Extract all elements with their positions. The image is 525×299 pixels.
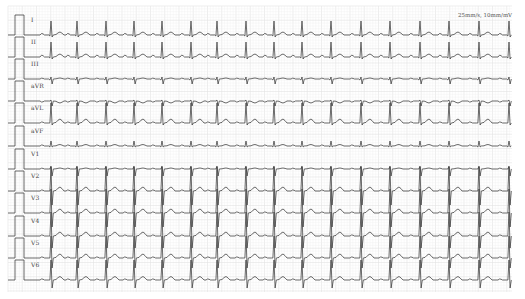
lead-label-avr: aVR xyxy=(31,82,44,89)
lead-label-avf: aVF xyxy=(31,127,44,134)
lead-label-i: I xyxy=(31,16,34,23)
lead-label-v4: V4 xyxy=(31,217,40,224)
ecg-chart: 25mm/s, 10mm/mV IIIIIIaVRaVLaVFV1V2V3V4V… xyxy=(0,0,525,299)
speed-gain-label: 25mm/s, 10mm/mV xyxy=(458,12,512,18)
lead-label-v2: V2 xyxy=(31,172,40,179)
lead-label-v3: V3 xyxy=(31,194,40,201)
lead-label-v6: V6 xyxy=(31,261,40,268)
ecg-grid-and-traces xyxy=(0,0,525,299)
lead-label-avl: aVL xyxy=(31,104,44,111)
lead-label-iii: III xyxy=(31,60,39,67)
lead-label-v5: V5 xyxy=(31,239,40,246)
lead-label-ii: II xyxy=(31,38,36,45)
lead-label-v1: V1 xyxy=(31,150,40,157)
